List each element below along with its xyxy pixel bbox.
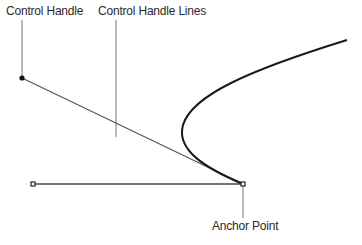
control-handle-label: Control Handle [6,4,83,18]
control-handle-lines-label: Control Handle Lines [98,4,206,18]
bezier-curve [182,40,347,184]
control-handle-point[interactable] [19,75,24,80]
control-handle-point-square[interactable] [31,182,35,186]
anchor-point[interactable] [241,182,245,186]
anchor-point-label: Anchor Point [212,219,278,233]
bezier-diagram [0,0,362,245]
